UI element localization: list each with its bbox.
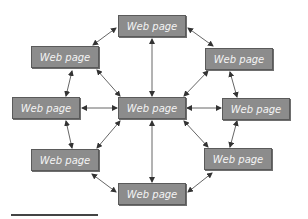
edge-upper-left-left xyxy=(66,71,72,96)
edge-top-upper-right xyxy=(188,28,213,46)
edge-right-lower-right xyxy=(230,121,237,147)
edge-lower-right-bottom xyxy=(188,173,212,192)
node-top: Web page xyxy=(118,15,186,37)
edge-center-upper-left xyxy=(97,70,120,96)
edge-top-upper-left xyxy=(93,28,116,45)
edge-center-lower-right xyxy=(184,121,208,147)
edge-center-upper-right xyxy=(184,71,208,96)
node-left: Web page xyxy=(12,97,80,119)
edge-lower-left-bottom xyxy=(92,174,116,192)
node-bottom: Web page xyxy=(118,183,186,205)
node-lower-right: Web page xyxy=(204,148,272,170)
node-lower-left: Web page xyxy=(31,149,99,171)
node-upper-right: Web page xyxy=(205,48,273,70)
footer-rule xyxy=(11,214,98,216)
edge-upper-right-right xyxy=(230,72,237,97)
node-right: Web page xyxy=(222,98,290,120)
node-center: Web page xyxy=(118,97,186,119)
edge-center-lower-left xyxy=(97,121,120,148)
edge-left-lower-left xyxy=(66,121,72,148)
node-upper-left: Web page xyxy=(31,46,99,68)
